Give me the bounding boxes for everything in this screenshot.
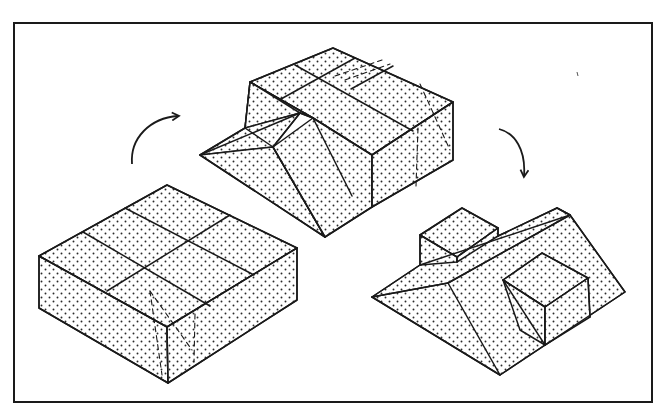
stray-mark — [577, 72, 578, 76]
middle-block — [200, 48, 453, 237]
diagram-figure — [0, 0, 665, 416]
left-block — [39, 185, 297, 383]
right-block — [372, 208, 625, 375]
arrow-middle-to-right-icon — [499, 129, 524, 176]
arrow-left-to-middle-icon — [132, 116, 178, 164]
